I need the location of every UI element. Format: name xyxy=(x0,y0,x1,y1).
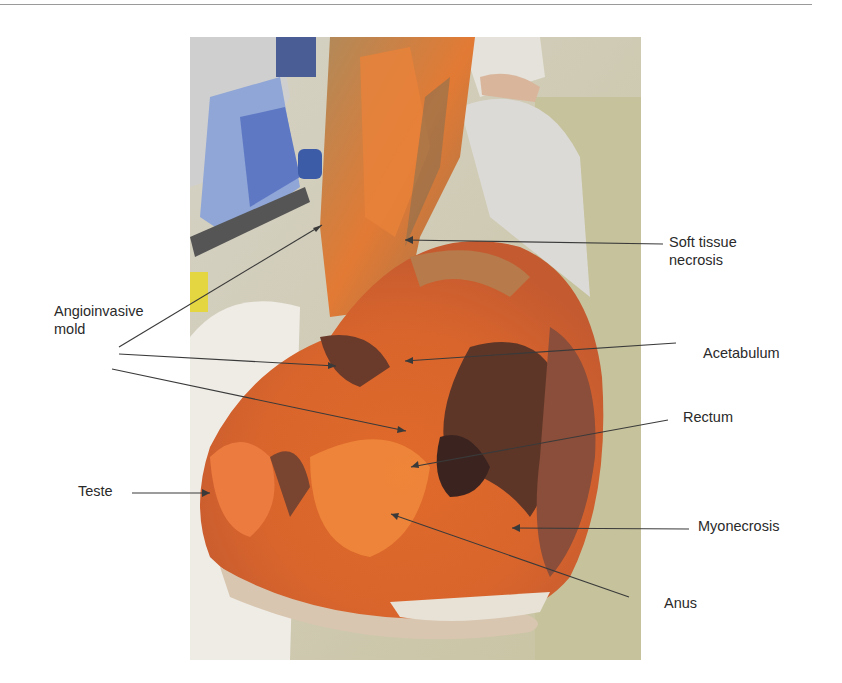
label-teste: Teste xyxy=(78,482,113,500)
surgical-photo xyxy=(190,37,641,660)
surgical-photo-illustration xyxy=(190,37,641,660)
label-angioinvasive-mold: Angioinvasive mold xyxy=(54,302,143,338)
label-line: necrosis xyxy=(669,251,737,269)
label-rectum: Rectum xyxy=(683,408,733,426)
label-anus: Anus xyxy=(664,594,697,612)
label-line: Acetabulum xyxy=(703,344,780,362)
label-line: Rectum xyxy=(683,408,733,426)
label-line: Soft tissue xyxy=(669,233,737,251)
label-myonecrosis: Myonecrosis xyxy=(698,517,779,535)
top-rule xyxy=(0,4,812,5)
label-line: Angioinvasive xyxy=(54,302,143,320)
label-line: mold xyxy=(54,320,143,338)
label-line: Myonecrosis xyxy=(698,517,779,535)
label-soft-tissue-necrosis: Soft tissue necrosis xyxy=(669,233,737,269)
label-line: Anus xyxy=(664,594,697,612)
label-acetabulum: Acetabulum xyxy=(703,344,780,362)
label-line: Teste xyxy=(78,482,113,500)
